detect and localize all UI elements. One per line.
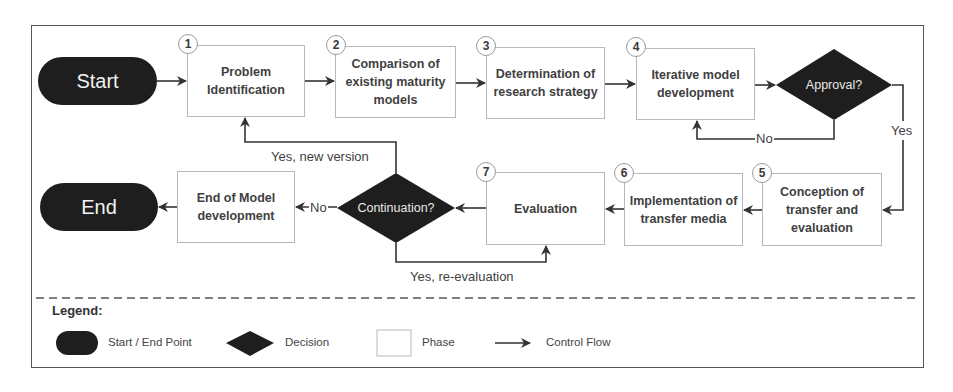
phase-4-number: 4 xyxy=(626,37,646,57)
start-label: Start xyxy=(76,70,118,93)
end-of-model-box: End of Model development xyxy=(177,171,295,243)
yes-re-evaluation-label: Yes, re-evaluation xyxy=(410,269,514,284)
phase-6-number: 6 xyxy=(614,163,634,183)
end-terminal: End xyxy=(40,183,158,231)
phase-1-number: 1 xyxy=(178,34,198,54)
approval-no-label: No xyxy=(755,131,774,146)
legend-title: Legend: xyxy=(52,303,103,318)
yes-new-version-label: Yes, new version xyxy=(271,149,369,164)
phase-1-label: Problem Identification xyxy=(206,63,286,99)
approval-label: Approval? xyxy=(776,75,892,95)
legend-decision: Decision xyxy=(285,336,329,348)
phase-4-box: Iterative model development xyxy=(636,48,755,120)
end-label: End xyxy=(81,196,117,219)
end-of-model-label: End of Model development xyxy=(191,189,281,225)
legend-phase: Phase xyxy=(422,336,455,348)
phase-2-box: Comparison of existing maturity models xyxy=(335,46,456,118)
start-terminal: Start xyxy=(38,57,157,105)
phase-6-label: Implementation of transfer media xyxy=(629,192,738,228)
phase-7-label: Evaluation xyxy=(514,200,577,218)
approval-yes-label: Yes xyxy=(891,121,912,140)
phase-2-number: 2 xyxy=(326,35,346,55)
phase-3-label: Determination of research strategy xyxy=(491,65,600,101)
phase-7-box: Evaluation xyxy=(486,172,605,245)
continuation-no-label: No xyxy=(309,200,328,215)
legend-control-flow: Control Flow xyxy=(546,336,611,348)
phase-3-box: Determination of research strategy xyxy=(486,47,605,119)
phase-4-label: Iterative model development xyxy=(646,66,746,102)
phase-6-box: Implementation of transfer media xyxy=(624,173,743,246)
phase-1-box: Problem Identification xyxy=(187,45,305,117)
phase-5-label: Conception of transfer and evaluation xyxy=(777,183,867,237)
phase-5-box: Conception of transfer and evaluation xyxy=(762,173,882,246)
phase-7-number: 7 xyxy=(476,162,496,182)
phase-2-label: Comparison of existing maturity models xyxy=(340,55,451,109)
continuation-label: Continuation? xyxy=(337,198,455,218)
legend-start-end: Start / End Point xyxy=(108,336,192,348)
phase-3-number: 3 xyxy=(476,36,496,56)
phase-5-number: 5 xyxy=(752,163,772,183)
process-diagram: Start End Problem Identification 1 Compa… xyxy=(0,0,953,392)
